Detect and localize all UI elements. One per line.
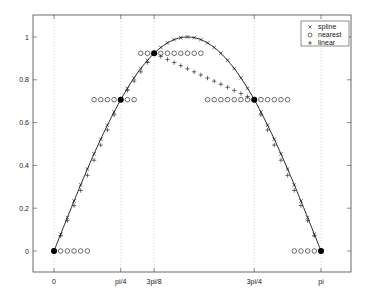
nearest-marker — [58, 249, 63, 254]
y-tick-label: 0.4 — [19, 162, 29, 169]
nearest-marker — [192, 51, 197, 56]
linear-marker — [125, 88, 129, 92]
nearest-marker — [125, 97, 130, 102]
y-tick-label: 1 — [25, 34, 29, 41]
x-tick-label: 0 — [52, 278, 56, 285]
nearest-marker — [259, 97, 264, 102]
linear-marker — [239, 91, 243, 95]
grid-lines — [54, 15, 321, 272]
interpolation-chart: 0pi/43pi/83pi/4pi00.20.40.60.81 splinene… — [0, 0, 370, 298]
node-point — [51, 248, 57, 254]
nearest-marker — [205, 97, 210, 102]
linear-marker — [92, 158, 96, 162]
nearest-marker — [138, 51, 143, 56]
linear-marker — [219, 82, 223, 86]
spline-marker — [212, 46, 216, 50]
linear-marker — [199, 73, 203, 77]
spline-marker — [286, 167, 290, 171]
linear-marker — [179, 63, 183, 67]
spline-marker — [246, 86, 250, 90]
legend-label: linear — [318, 39, 336, 46]
legend-label: nearest — [318, 31, 341, 38]
node-point — [151, 50, 157, 56]
node-point — [318, 248, 324, 254]
x-tick-label: pi/4 — [115, 278, 126, 286]
nearest-marker — [65, 249, 70, 254]
y-tick-label: 0.8 — [19, 76, 29, 83]
spline-marker — [219, 51, 223, 55]
y-tick-label: 0.2 — [19, 205, 29, 212]
chart-canvas: 0pi/43pi/83pi/4pi00.20.40.60.81 splinene… — [0, 0, 370, 298]
interpolation-nodes — [51, 50, 324, 254]
linear-marker — [279, 158, 283, 162]
nearest-marker — [225, 97, 230, 102]
spline-marker — [92, 152, 96, 156]
linear-marker — [145, 60, 149, 64]
nearest-marker — [145, 51, 150, 56]
nearest-marker — [199, 51, 204, 56]
spline-marker — [106, 123, 110, 127]
x-tick-label: 3pi/8 — [147, 278, 162, 286]
nearest-marker — [299, 249, 304, 254]
spline-marker — [99, 137, 103, 141]
spline-marker — [206, 41, 210, 45]
nearest-marker — [279, 97, 284, 102]
legend-label: spline — [318, 23, 336, 31]
nearest-marker — [305, 249, 310, 254]
nearest-marker — [312, 249, 317, 254]
node-point — [251, 97, 257, 103]
spline-marker — [272, 137, 276, 141]
spline-marker — [299, 199, 303, 203]
nearest-marker — [265, 97, 270, 102]
nearest-marker — [172, 51, 177, 56]
x-tick-label: pi — [318, 278, 324, 286]
x-tick-label: 3pi/4 — [247, 278, 262, 286]
axis-ticks: 0pi/43pi/83pi/4pi00.20.40.60.81 — [19, 15, 351, 286]
linear-marker — [212, 79, 216, 83]
spline-marker — [279, 152, 283, 156]
spline-marker — [266, 123, 270, 127]
spline-marker — [239, 76, 243, 80]
linear-marker — [185, 67, 189, 71]
nearest-marker — [212, 97, 217, 102]
linear-marker — [225, 85, 229, 89]
nearest-marker — [92, 97, 97, 102]
node-point — [118, 97, 124, 103]
nearest-marker — [78, 249, 83, 254]
linear-marker — [192, 70, 196, 74]
nearest-marker — [98, 97, 103, 102]
y-tick-label: 0.6 — [19, 119, 29, 126]
nearest-marker — [285, 97, 290, 102]
nearest-marker — [232, 97, 237, 102]
nearest-marker — [165, 51, 170, 56]
spline-marker — [72, 199, 76, 203]
spline-marker — [79, 183, 83, 187]
spline-marker — [232, 67, 236, 71]
nearest-marker — [105, 97, 110, 102]
y-tick-label: 0 — [25, 248, 29, 255]
nearest-marker — [292, 249, 297, 254]
spline-marker — [226, 59, 230, 63]
linear-marker — [172, 60, 176, 64]
nearest-marker — [239, 97, 244, 102]
nearest-marker — [219, 97, 224, 102]
spline-marker — [166, 41, 170, 45]
nearest-marker — [185, 51, 190, 56]
legend: splinenearestlinear — [301, 21, 349, 46]
linear-marker — [165, 57, 169, 61]
spline-marker — [293, 183, 297, 187]
nearest-marker — [85, 249, 90, 254]
linear-marker — [205, 76, 209, 80]
nearest-marker — [179, 51, 184, 56]
nearest-marker — [272, 97, 277, 102]
spline-marker — [159, 46, 163, 50]
nearest-marker — [132, 97, 137, 102]
linear-marker — [232, 88, 236, 92]
nearest-marker — [72, 249, 77, 254]
spline-marker — [86, 167, 90, 171]
series-markers — [52, 35, 324, 253]
nearest-marker — [112, 97, 117, 102]
